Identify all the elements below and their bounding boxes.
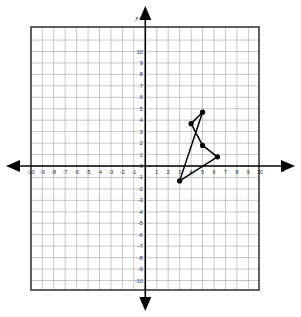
- x-tick-label: 1: [155, 169, 158, 175]
- y-axis-label: y: [134, 14, 139, 22]
- x-tick-label: 7: [224, 169, 227, 175]
- x-tick-label: -7: [63, 169, 68, 175]
- y-tick-label: -9: [138, 266, 143, 272]
- x-tick-label: -1: [131, 169, 136, 175]
- polygon-vertex: [215, 154, 220, 159]
- coordinate-plane-figure: -10-9-8-7-6-5-4-3-2-11234567891010987654…: [0, 0, 301, 317]
- x-tick-label: 5: [201, 169, 204, 175]
- x-axis-arrow-left: [6, 160, 20, 172]
- y-tick-label: 8: [140, 71, 143, 77]
- y-axis-arrow-down: [139, 297, 151, 311]
- y-tick-label: -3: [138, 197, 143, 203]
- x-tick-label: 9: [247, 169, 250, 175]
- polygon-vertex: [200, 110, 205, 115]
- y-tick-label: -7: [138, 243, 143, 249]
- y-tick-label: 0: [140, 163, 143, 169]
- x-tick-label: -3: [109, 169, 114, 175]
- y-tick-label: 2: [140, 140, 143, 146]
- polygon-vertex: [200, 143, 205, 148]
- y-tick-label: 10: [137, 49, 143, 55]
- y-tick-label: -6: [138, 232, 143, 238]
- y-tick-label: -4: [138, 209, 143, 215]
- x-tick-label: -10: [27, 169, 35, 175]
- y-tick-label: 6: [140, 94, 143, 100]
- y-tick-label: 4: [140, 117, 143, 123]
- y-tick-label: 5: [140, 106, 143, 112]
- x-tick-label: 2: [167, 169, 170, 175]
- x-tick-label: 6: [213, 169, 216, 175]
- polygon-vertex: [189, 121, 194, 126]
- y-tick-label: 3: [140, 129, 143, 135]
- x-tick-label: 3: [178, 169, 181, 175]
- y-axis-arrow-up: [139, 6, 151, 20]
- y-tick-label: 9: [140, 60, 143, 66]
- x-tick-label: -6: [74, 169, 79, 175]
- x-tick-label: -5: [86, 169, 91, 175]
- polygon-vertex: [177, 178, 182, 183]
- y-tick-label: -5: [138, 220, 143, 226]
- x-tick-label: 8: [235, 169, 238, 175]
- y-tick-label: -2: [138, 186, 143, 192]
- x-tick-label: -9: [40, 169, 45, 175]
- x-tick-label: -8: [51, 169, 56, 175]
- coordinate-plot-svg: -10-9-8-7-6-5-4-3-2-11234567891010987654…: [0, 0, 301, 317]
- x-tick-label: -2: [120, 169, 125, 175]
- x-tick-label: 10: [257, 169, 263, 175]
- y-tick-label: -10: [135, 278, 143, 284]
- y-tick-label: -1: [138, 174, 143, 180]
- y-tick-label: 7: [140, 83, 143, 89]
- y-tick-label: 1: [140, 152, 143, 158]
- y-tick-label: -8: [138, 255, 143, 261]
- x-tick-label: -4: [97, 169, 102, 175]
